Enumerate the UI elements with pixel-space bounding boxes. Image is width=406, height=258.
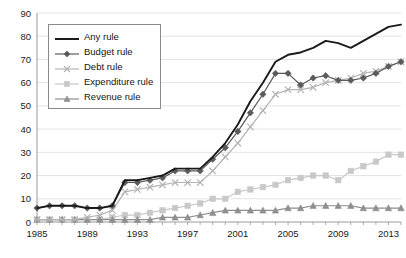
y-axis-tick-label: 80 [20,31,31,42]
data-point-marker [260,91,266,97]
line-chart: 0102030405060708090198519891993199720012… [0,0,406,258]
data-point-marker [323,173,328,178]
legend-marker-icon [54,91,80,103]
legend-item-budget-rule[interactable]: Budget rule [54,44,153,59]
data-point-marker [185,203,190,208]
y-axis-tick-label: 70 [20,54,31,65]
data-point-marker [361,164,366,169]
data-point-marker [222,154,228,160]
data-point-marker [298,175,303,180]
data-point-marker [147,210,152,215]
data-point-marker [386,152,391,157]
legend-marker-icon [54,76,80,88]
data-point-marker [197,201,202,206]
legend-item-any-rule[interactable]: Any rule [54,29,153,44]
legend-item-revenue-rule[interactable]: Revenue rule [54,89,153,104]
data-point-marker [373,159,378,164]
data-point-marker [272,70,278,76]
x-axis-tick-label: 1989 [77,228,98,239]
data-point-marker [172,205,177,210]
data-point-marker [310,75,316,81]
data-point-marker [235,189,240,194]
y-axis-tick-label: 10 [20,193,31,204]
data-point-marker [336,177,341,182]
y-axis-tick-label: 50 [20,100,31,111]
data-point-marker [64,51,70,57]
data-point-marker [322,73,328,79]
legend-item-expenditure-rule[interactable]: Expenditure rule [54,74,153,89]
x-axis-tick-label: 2001 [227,228,248,239]
data-point-marker [247,110,253,116]
x-axis-tick-label: 1997 [177,228,198,239]
data-point-marker [223,196,228,201]
x-axis-tick-label: 2009 [328,228,349,239]
data-point-marker [272,91,278,97]
y-axis-tick-label: 90 [20,8,31,19]
legend-marker-icon [54,61,80,73]
y-axis-tick-label: 20 [20,170,31,181]
data-point-marker [310,173,315,178]
data-point-marker [64,81,69,86]
legend-item-label: Debt rule [84,61,123,73]
chart-legend: Any ruleBudget ruleDebt ruleExpenditure … [48,24,161,109]
data-point-marker [260,184,265,189]
x-axis-tick-label: 1993 [127,228,148,239]
legend-marker-icon [54,31,80,43]
data-point-marker [348,168,353,173]
data-point-marker [160,208,165,213]
legend-item-debt-rule[interactable]: Debt rule [54,59,153,74]
x-axis-tick-label: 2005 [277,228,298,239]
data-point-marker [285,177,290,182]
legend-marker-icon [54,46,80,58]
x-axis-tick-label: 1985 [26,228,47,239]
data-point-marker [235,140,241,146]
data-point-marker [210,196,215,201]
data-point-marker [248,187,253,192]
y-axis-tick-label: 0 [26,217,31,228]
x-axis-tick-label: 2013 [378,228,399,239]
legend-item-label: Revenue rule [84,91,141,103]
y-axis-tick-label: 30 [20,147,31,158]
y-axis-tick-label: 60 [20,77,31,88]
data-point-marker [398,152,403,157]
data-point-marker [210,168,216,174]
data-point-marker [273,182,278,187]
legend-item-label: Any rule [84,31,119,43]
data-point-marker [260,107,266,113]
y-axis-tick-label: 40 [20,124,31,135]
legend-item-label: Budget rule [84,46,133,58]
legend-item-label: Expenditure rule [84,76,153,88]
